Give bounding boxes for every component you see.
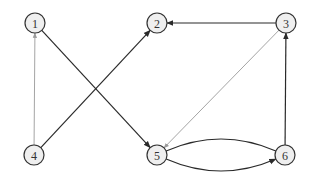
node-label: 2: [154, 17, 160, 31]
edge-6-to-5: [166, 139, 276, 151]
node-2: 2: [147, 13, 167, 33]
edge-3-to-5: [164, 30, 279, 148]
node-6: 6: [275, 145, 295, 165]
node-label: 3: [283, 17, 289, 31]
edge-4-to-1: [34, 33, 35, 145]
edge-6-to-3: [285, 33, 286, 145]
graph-diagram: 123456: [0, 0, 310, 180]
edge-5-to-6: [166, 159, 276, 171]
node-1: 1: [25, 13, 45, 33]
node-5: 5: [147, 145, 167, 165]
node-label: 4: [31, 149, 37, 163]
node-label: 5: [154, 149, 160, 163]
node-3: 3: [276, 13, 296, 33]
node-label: 1: [32, 17, 38, 31]
nodes-layer: 123456: [24, 13, 296, 165]
node-label: 6: [282, 149, 288, 163]
node-4: 4: [24, 145, 44, 165]
